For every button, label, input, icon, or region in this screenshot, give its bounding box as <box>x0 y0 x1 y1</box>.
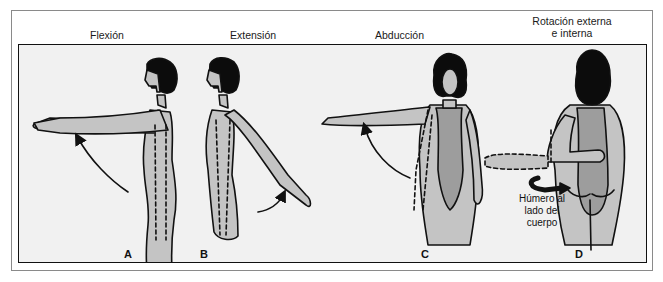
annotation-line2: lado del <box>512 205 572 217</box>
figure-a-flexion <box>33 58 177 270</box>
label-c: C <box>421 248 429 260</box>
annotation-line3: cuerpo <box>512 217 572 229</box>
shoulder-movements-illustration <box>0 0 663 282</box>
annotation-humerus: Húmero al lado del cuerpo <box>512 193 572 229</box>
label-b: B <box>200 248 208 260</box>
annotation-line1: Húmero al <box>512 193 572 205</box>
figure-c-abduction <box>322 54 482 245</box>
figure-b-extension <box>206 58 310 240</box>
label-a: A <box>124 248 132 260</box>
label-d: D <box>575 248 583 260</box>
